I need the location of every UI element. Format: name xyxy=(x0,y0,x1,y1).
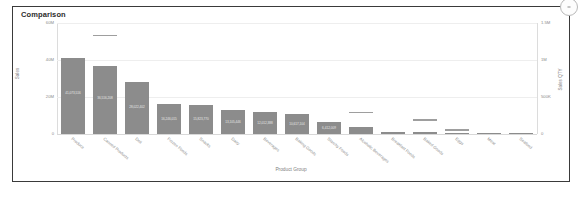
bar[interactable] xyxy=(477,133,502,134)
bar[interactable]: 15,823,770 xyxy=(189,105,214,134)
bar-group[interactable]: 13,105,446 xyxy=(217,23,249,134)
qty-marker xyxy=(349,112,374,114)
bar[interactable]: 6,412,009 xyxy=(317,122,342,134)
bar[interactable]: 28,022,402 xyxy=(125,82,150,134)
x-axis-tick: Eggs xyxy=(441,136,473,170)
bar-group[interactable] xyxy=(473,23,505,134)
resize-handle-icon[interactable] xyxy=(560,0,578,16)
bar-group[interactable] xyxy=(409,23,441,134)
x-axis-tick: Canned Products xyxy=(89,136,121,170)
y-axis-left-tick-label: 40M xyxy=(46,58,54,62)
bar-value-label: 15,823,770 xyxy=(189,118,214,121)
x-axis-tick-label: Deli xyxy=(134,137,142,145)
x-axis-category-labels: ProduceCanned ProductsDeliFrozen FoodsSn… xyxy=(57,136,537,170)
qty-marker xyxy=(445,129,470,131)
bar-value-label: 36,516,208 xyxy=(93,97,118,100)
bar-group[interactable]: 28,022,402 xyxy=(121,23,153,134)
bar-group[interactable]: 16,246,015 xyxy=(153,23,185,134)
x-axis-tick-label: Produce xyxy=(70,137,84,150)
bar[interactable] xyxy=(349,127,374,134)
x-axis-tick: Produce xyxy=(57,136,89,170)
plot-area: 41,073,51636,516,20828,022,40216,246,015… xyxy=(57,23,537,134)
bar-value-label: 13,105,446 xyxy=(221,121,246,124)
bar-group[interactable]: 41,073,516 xyxy=(57,23,89,134)
x-axis-tick-label: Seafood xyxy=(518,137,532,150)
bar[interactable]: 16,246,015 xyxy=(157,104,182,134)
bar[interactable]: 12,012,388 xyxy=(253,112,278,134)
plot-inner: 41,073,51636,516,20828,022,40216,246,015… xyxy=(57,23,537,134)
bar[interactable] xyxy=(445,133,470,134)
x-axis-tick: Seafood xyxy=(505,136,537,170)
page-title: Comparison xyxy=(21,10,66,19)
x-axis-tick: Starchy Foods xyxy=(313,136,345,170)
bar-value-label: 41,073,516 xyxy=(61,92,86,95)
y-axis-left-tick-label: 0 xyxy=(52,132,54,136)
y-axis-right-ticks: 1.5M1M500K0 xyxy=(541,23,567,134)
y-axis-left-title: Sales xyxy=(15,68,20,80)
bar-value-label: 6,412,009 xyxy=(317,127,342,130)
bar[interactable] xyxy=(413,132,438,134)
x-axis-tick: Frozen Foods xyxy=(153,136,185,170)
bar[interactable] xyxy=(509,133,534,134)
qty-marker xyxy=(413,119,438,121)
bar-value-label: 12,012,388 xyxy=(253,122,278,125)
y-axis-left-tick-label: 60M xyxy=(46,21,54,25)
bar-group[interactable] xyxy=(441,23,473,134)
y-axis-right-title: Sales QTY xyxy=(558,68,563,90)
chart-card[interactable]: Comparison 60M40M20M0 1.5M1M500K0 Sales … xyxy=(12,6,570,182)
x-axis-tick-label: Snacks xyxy=(198,137,211,149)
x-axis-tick: Meat xyxy=(473,136,505,170)
bar-group[interactable] xyxy=(505,23,537,134)
bar-value-label: 16,246,015 xyxy=(157,118,182,121)
x-axis-tick-label: Eggs xyxy=(454,137,464,146)
x-axis-tick-label: Beverages xyxy=(262,137,280,153)
bar[interactable]: 41,073,516 xyxy=(61,58,86,134)
y-axis-right-tick-label: 0 xyxy=(541,132,543,136)
x-axis-tick: Dairy xyxy=(217,136,249,170)
bar-group[interactable]: 10,617,104 xyxy=(281,23,313,134)
x-axis-tick: Beverages xyxy=(249,136,281,170)
bar[interactable]: 13,105,446 xyxy=(221,110,246,134)
bar-value-label: 10,617,104 xyxy=(285,123,310,126)
bar[interactable] xyxy=(381,132,406,134)
x-axis-tick: Snacks xyxy=(185,136,217,170)
resize-handle-dot xyxy=(568,7,571,8)
y-axis-left-tick-label: 20M xyxy=(46,95,54,99)
bar-group[interactable]: 15,823,770 xyxy=(185,23,217,134)
x-axis-tick: Deli xyxy=(121,136,153,170)
bar-group[interactable] xyxy=(377,23,409,134)
qty-marker xyxy=(93,35,118,37)
y-axis-right-tick-label: 1M xyxy=(541,58,547,62)
bar[interactable]: 10,617,104 xyxy=(285,114,310,134)
bar-value-label: 28,022,402 xyxy=(125,106,150,109)
x-axis-tick-label: Meat xyxy=(486,137,496,146)
bar-group[interactable]: 6,412,009 xyxy=(313,23,345,134)
x-axis-tick-label: Dairy xyxy=(230,137,240,146)
bar-group[interactable] xyxy=(345,23,377,134)
x-axis-tick: Breakfast Foods xyxy=(377,136,409,170)
y-axis-left-ticks: 60M40M20M0 xyxy=(31,23,54,134)
x-axis-tick: Alcoholic Beverages xyxy=(345,136,377,170)
bar[interactable]: 36,516,208 xyxy=(93,66,118,134)
bar-group[interactable]: 36,516,208 xyxy=(89,23,121,134)
x-axis-tick: Baked Goods xyxy=(409,136,441,170)
bar-group[interactable]: 12,012,388 xyxy=(249,23,281,134)
x-axis-tick: Baking Goods xyxy=(281,136,313,170)
y-axis-right-spine xyxy=(537,23,538,134)
y-axis-right-tick-label: 500K xyxy=(541,95,551,99)
x-axis-title: Product Group xyxy=(13,167,569,172)
y-axis-right-tick-label: 1.5M xyxy=(541,21,550,25)
